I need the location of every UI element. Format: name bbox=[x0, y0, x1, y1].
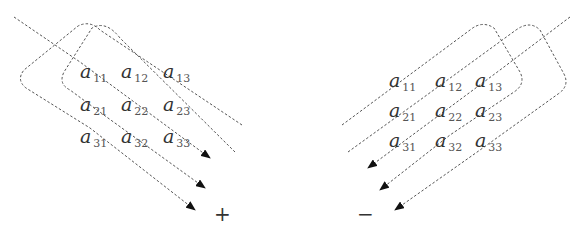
term-a12: a12 bbox=[435, 69, 462, 94]
right-negative-diagram: a11 a12 a13 a21 a22 a23 a31 a32 a33 − bbox=[342, 17, 570, 226]
term-a33: a33 bbox=[163, 125, 190, 150]
term-a31: a31 bbox=[80, 125, 107, 150]
term-a33: a33 bbox=[475, 129, 502, 154]
term-a11: a11 bbox=[80, 60, 107, 85]
term-a22: a22 bbox=[121, 93, 148, 118]
term-a23: a23 bbox=[475, 99, 502, 124]
minus-sign: − bbox=[357, 202, 374, 226]
diagonal-loop-1 bbox=[20, 24, 242, 210]
term-a32: a32 bbox=[435, 129, 462, 154]
term-a12: a12 bbox=[121, 60, 148, 85]
sarrus-diagram: a11 a12 a13 a21 a22 a23 a31 a32 a33 + a1… bbox=[0, 0, 584, 231]
term-a21: a21 bbox=[80, 93, 107, 118]
term-a23: a23 bbox=[163, 93, 190, 118]
left-matrix: a11 a12 a13 a21 a22 a23 a31 a32 a33 bbox=[80, 60, 190, 150]
term-a31: a31 bbox=[389, 129, 416, 154]
plus-sign: + bbox=[214, 202, 231, 226]
right-matrix: a11 a12 a13 a21 a22 a23 a31 a32 a33 bbox=[389, 69, 502, 154]
term-a32: a32 bbox=[121, 125, 148, 150]
antidiagonal-loop-1 bbox=[342, 24, 522, 190]
term-a22: a22 bbox=[435, 99, 462, 124]
term-a21: a21 bbox=[389, 99, 416, 124]
term-a13: a13 bbox=[475, 69, 502, 94]
term-a13: a13 bbox=[163, 60, 190, 85]
left-positive-diagram: a11 a12 a13 a21 a22 a23 a31 a32 a33 + bbox=[14, 17, 242, 226]
